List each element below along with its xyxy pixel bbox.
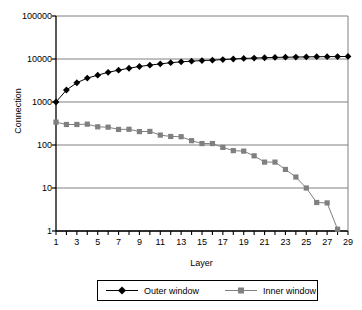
x-tick-label: 17 <box>213 238 233 247</box>
x-tick-label: 11 <box>150 238 170 247</box>
legend-label-outer: Outer window <box>144 286 199 296</box>
legend-item-inner: Inner window <box>225 285 316 296</box>
chart-figure: Connection 110100100010000100000 1357911… <box>0 0 362 310</box>
x-tick-label: 25 <box>296 238 316 247</box>
x-tick-label: 21 <box>255 238 275 247</box>
x-tick-label: 13 <box>171 238 191 247</box>
x-tick-label: 3 <box>67 238 87 247</box>
x-tick-label: 19 <box>234 238 254 247</box>
legend-label-inner: Inner window <box>263 286 316 296</box>
x-tick-label: 27 <box>317 238 337 247</box>
x-tick-label: 29 <box>338 238 358 247</box>
legend-item-outer: Outer window <box>106 285 199 296</box>
x-tick-label: 1 <box>46 238 66 247</box>
x-tick-label: 9 <box>129 238 149 247</box>
x-tick-label: 15 <box>192 238 212 247</box>
chart-legend: Outer window Inner window <box>97 280 318 301</box>
x-tick-label: 5 <box>88 238 108 247</box>
legend-diamond-marker-icon <box>106 285 138 296</box>
x-tick-label: 23 <box>275 238 295 247</box>
legend-square-marker-icon <box>225 285 257 296</box>
x-axis-title: Layer <box>55 258 348 268</box>
x-tick-label: 7 <box>109 238 129 247</box>
